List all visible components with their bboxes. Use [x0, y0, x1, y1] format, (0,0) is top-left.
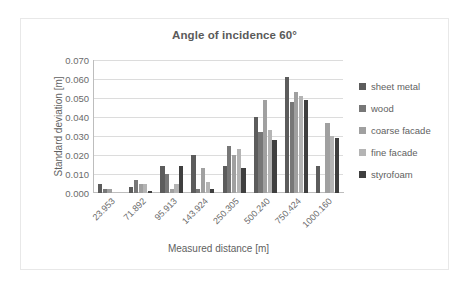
bar-group: 750.424	[281, 60, 312, 193]
legend-item[interactable]: coarse facade	[359, 119, 449, 141]
bar	[107, 189, 111, 193]
bar	[335, 138, 339, 193]
bar	[139, 184, 143, 194]
legend-item[interactable]: sheet metal	[359, 75, 449, 97]
bar	[98, 184, 102, 194]
bar	[316, 166, 320, 193]
y-axis-tick-label: 0.010	[65, 169, 89, 180]
bar	[294, 92, 298, 193]
bar	[227, 146, 231, 194]
y-axis-tick-label: 0.070	[65, 55, 89, 66]
bar-group: 71.892	[125, 60, 156, 193]
y-axis-title: Standard deviation [m]	[51, 60, 65, 193]
chart-legend: sheet metalwoodcoarse facadefine facades…	[359, 75, 449, 185]
chart-title: Angle of incidence 60°	[21, 29, 448, 41]
bar	[299, 96, 303, 193]
x-axis-tick-label: 500.240	[242, 196, 272, 226]
x-axis-tick-label: 23.953	[90, 196, 117, 223]
x-axis-title: Measured distance [m]	[94, 243, 343, 254]
legend-label: sheet metal	[371, 81, 420, 92]
bar	[160, 166, 164, 193]
bar-group: 250.305	[219, 60, 250, 193]
bar-group: 1000.160	[312, 60, 343, 193]
bar	[170, 189, 174, 193]
legend-label: coarse facade	[371, 125, 431, 136]
legend-label: wood	[371, 103, 394, 114]
bar	[241, 168, 245, 193]
bar	[129, 187, 133, 193]
x-axis-tick-label: 250.305	[211, 196, 241, 226]
bar-group: 23.953	[94, 60, 125, 193]
bar	[191, 155, 195, 193]
legend-swatch-icon	[359, 83, 366, 90]
y-axis-tick-label: 0.050	[65, 93, 89, 104]
y-axis-title-label: Standard deviation [m]	[53, 76, 64, 176]
bar	[237, 149, 241, 193]
bar	[134, 180, 138, 193]
bar	[210, 189, 214, 193]
y-axis-tick-label: 0.000	[65, 188, 89, 199]
chart-container: Angle of incidence 60° Standard deviatio…	[20, 18, 449, 270]
legend-item[interactable]: wood	[359, 97, 449, 119]
x-axis-tick-label: 143.924	[180, 196, 210, 226]
bar	[268, 130, 272, 193]
bar	[196, 189, 200, 193]
bar	[325, 123, 329, 193]
bar	[148, 191, 152, 193]
legend-swatch-icon	[359, 127, 366, 134]
bar-group: 500.240	[250, 60, 281, 193]
bar	[143, 184, 147, 194]
legend-label: fine facade	[371, 147, 417, 158]
bar	[285, 77, 289, 193]
legend-label: styrofoam	[371, 169, 413, 180]
bar	[103, 189, 107, 193]
bar	[174, 184, 178, 194]
bar	[258, 132, 262, 193]
bar	[179, 166, 183, 193]
x-axis-tick-label: 95.913	[152, 196, 179, 223]
bar	[330, 136, 334, 193]
legend-swatch-icon	[359, 149, 366, 156]
x-axis-tick-label: 1000.160	[301, 196, 335, 230]
bar	[272, 140, 276, 193]
bar-group: 143.924	[187, 60, 218, 193]
bar	[223, 166, 227, 193]
legend-swatch-icon	[359, 105, 366, 112]
bar	[263, 100, 267, 193]
bar	[304, 100, 308, 193]
legend-item[interactable]: styrofoam	[359, 163, 449, 185]
y-axis-tick-label: 0.020	[65, 150, 89, 161]
bar	[206, 182, 210, 193]
bar	[201, 168, 205, 193]
bar	[290, 102, 294, 193]
bar	[165, 174, 169, 193]
legend-swatch-icon	[359, 171, 366, 178]
legend-item[interactable]: fine facade	[359, 141, 449, 163]
x-axis-tick-label: 71.892	[121, 196, 148, 223]
y-axis-tick-label: 0.040	[65, 112, 89, 123]
y-axis-tick-label: 0.030	[65, 131, 89, 142]
bar-group: 95.913	[156, 60, 187, 193]
plot-area: 0.0000.0100.0200.0300.0400.0500.0600.070…	[94, 60, 343, 193]
bar	[254, 117, 258, 193]
bar	[232, 155, 236, 193]
y-axis-tick-label: 0.060	[65, 74, 89, 85]
x-axis-tick-label: 750.424	[273, 196, 303, 226]
